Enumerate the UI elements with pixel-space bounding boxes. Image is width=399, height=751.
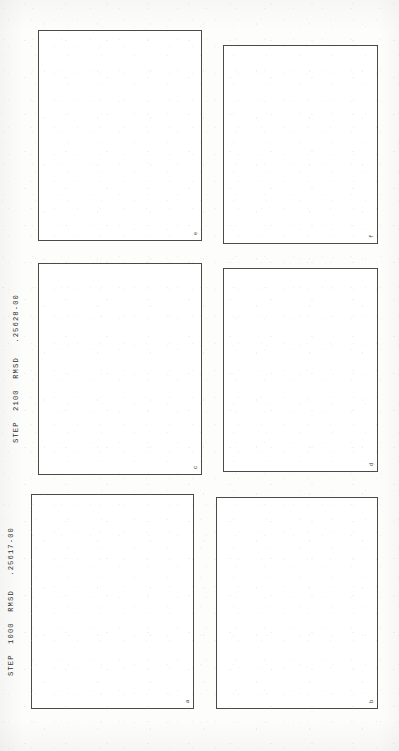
step-label: STEP <box>12 421 20 443</box>
panel-letter: f <box>369 235 376 239</box>
simulation-panel: b STEP 1300 RMSD .25566-00 <box>216 497 378 709</box>
panel-letter: a <box>185 700 192 704</box>
simulation-panel: a STEP 100 RMSD .15953-02 <box>31 494 194 709</box>
rmsd-label: RMSD <box>12 357 20 379</box>
simulation-panel: e STEP 900 RMSD .24317-00 <box>38 30 202 241</box>
panel-frame: f <box>223 45 378 244</box>
rmsd-value: .25617-00 <box>7 527 15 576</box>
simulation-panel: f STEP 2100 RMSD .25628-00 <box>223 45 378 244</box>
panel-caption: STEP 1300 RMSD .25566-00 <box>0 709 205 751</box>
panel-frame: d <box>223 268 378 472</box>
panel-letter: d <box>369 463 376 467</box>
panel-plot-canvas <box>39 264 201 474</box>
panel-letter: e <box>193 232 200 236</box>
step-label: STEP <box>7 654 15 676</box>
panel-letter: c <box>193 466 200 470</box>
panel-plot-canvas <box>32 495 193 708</box>
simulation-panel: c STEP 500 RMSD .24817-00 <box>38 263 202 475</box>
panel-plot-canvas <box>217 498 377 708</box>
panel-frame: e <box>38 30 202 241</box>
rmsd-label: RMSD <box>7 590 15 612</box>
panel-plot-canvas <box>39 31 201 240</box>
panel-letter: b <box>369 700 376 704</box>
step-value: 2100 <box>12 389 20 411</box>
rmsd-value: .25628-00 <box>12 294 20 343</box>
panel-frame: b <box>216 497 378 709</box>
step-value: 1000 <box>7 622 15 644</box>
scanned-figure-page: e STEP 900 RMSD .24317-00 f STEP 2100 RM… <box>0 0 399 751</box>
figure-panel-grid: e STEP 900 RMSD .24317-00 f STEP 2100 RM… <box>0 0 399 751</box>
panel-frame: a <box>31 494 194 709</box>
panel-frame: c <box>38 263 202 475</box>
panel-plot-canvas <box>224 46 377 243</box>
panel-plot-canvas <box>224 269 377 471</box>
simulation-panel: d STEP 1000 RMSD .25617-00 <box>223 268 378 472</box>
